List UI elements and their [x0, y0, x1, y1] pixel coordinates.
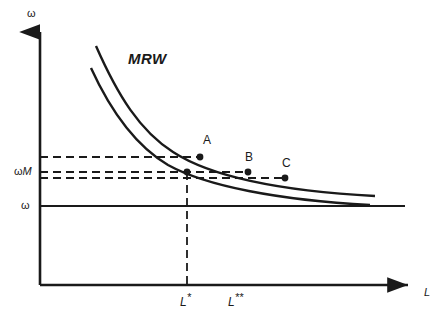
point-label-a: A	[203, 134, 211, 146]
economics-diagram: ω L ωM ω L* L** MRW A B C	[0, 0, 441, 322]
point-label-c: C	[282, 157, 291, 169]
omega-axis-label: ω	[27, 8, 36, 19]
labor-axis-label: L	[424, 287, 430, 298]
mrw-upper-curve	[96, 46, 375, 196]
omega-m-subscript: M	[23, 165, 32, 177]
point-label-b: B	[245, 151, 253, 163]
data-point-a	[197, 154, 204, 161]
omega-m-tick-label: ωM	[14, 166, 32, 177]
l-star-superscript: *	[187, 291, 191, 303]
omega-bar-tick-label: ω	[21, 200, 30, 211]
diagram-canvas	[0, 0, 441, 322]
data-point-l-star	[184, 169, 191, 176]
l-double-star-symbol: L	[228, 295, 235, 309]
l-double-star-superscript: **	[235, 291, 244, 303]
mrw-lower-curve	[91, 68, 370, 205]
data-point-b	[245, 169, 252, 176]
l-double-star-tick-label: L**	[228, 292, 243, 308]
mrw-curve-label: MRW	[128, 51, 167, 66]
l-star-tick-label: L*	[180, 292, 191, 308]
omega-m-symbol: ω	[14, 165, 23, 177]
l-star-symbol: L	[180, 295, 187, 309]
data-point-c	[282, 175, 289, 182]
